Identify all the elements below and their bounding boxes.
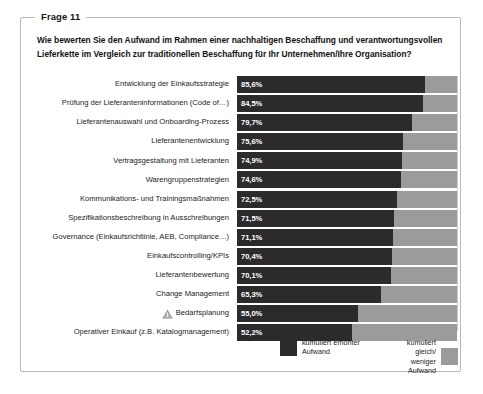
category-label: Prüfung der Lieferanteninformationen (Co… [25,99,237,108]
bar-track: 72,5% [237,191,457,208]
bar-segment-erhoehter-aufwand [237,95,423,112]
category-label-text: Einkaufscontrolling/KPIs [147,252,229,261]
bar-value-label: 72,5% [241,191,262,208]
category-label: Einkaufscontrolling/KPIs [25,252,237,261]
bar-value-label: 70,1% [241,267,262,284]
category-label: Kommunikations- und Trainingsmaßnahmen [25,195,237,204]
category-label-text: Governance (Einkaufsrichtlinie, AEB, Com… [53,233,229,242]
bar-track: 70,4% [237,248,457,265]
category-label: Lieferantenentwicklung [25,137,237,146]
bar-track: 74,6% [237,171,457,188]
bar-value-label: 79,7% [241,114,262,131]
category-label: Change Management [25,290,237,299]
chart-row: Kommunikations- und Trainingsmaßnahmen72… [25,191,458,208]
legend-swatch-dark [280,339,297,356]
category-label: Lieferantenbewertung [25,271,237,280]
stacked-bar-chart: Entwicklung der Einkaufsstrategie85,6%Pr… [25,76,458,331]
legend-label-dark: kumuliert erhöhter Aufwand [302,338,360,357]
category-label: Warengruppenstrategien [25,176,237,185]
bar-segment-erhoehter-aufwand [237,76,425,93]
chart-row: Bedarfsplanung55,0% [25,305,458,322]
bar-value-label: 71,5% [241,210,262,227]
category-label: Vertragsgestaltung mit Lieferanten [25,157,237,166]
chart-row: Lieferantenauswahl und Onboarding-Prozes… [25,114,458,131]
chart-row: Warengruppenstrategien74,6% [25,171,458,188]
bar-value-label: 74,6% [241,171,262,188]
category-label-text: Vertragsgestaltung mit Lieferanten [113,157,229,166]
category-label: Bedarfsplanung [25,309,237,319]
category-label-text: Entwicklung der Einkaufsstrategie [115,80,229,89]
category-label: Governance (Einkaufsrichtlinie, AEB, Com… [25,233,237,242]
question-text: Wie bewerten Sie den Aufwand im Rahmen e… [37,34,445,61]
category-label-text: Lieferantenentwicklung [151,137,229,146]
legend-label-gray: kumuliert gleich/ weniger Aufwand [396,338,436,375]
question-card: Frage 11 Wie bewerten Sie den Aufwand im… [20,17,461,372]
chart-row: Spezifikationsbeschreibung in Ausschreib… [25,210,458,227]
bar-value-label: 74,9% [241,152,262,169]
bar-track: 75,6% [237,133,457,150]
category-label-text: Lieferantenbewertung [156,271,229,280]
bar-track: 71,1% [237,229,457,246]
bar-track: 70,1% [237,267,457,284]
chart-row: Governance (Einkaufsrichtlinie, AEB, Com… [25,229,458,246]
warning-triangle-icon [162,309,173,319]
chart-row: Vertragsgestaltung mit Lieferanten74,9% [25,152,458,169]
bar-track: 84,5% [237,95,457,112]
bar-value-label: 85,6% [241,76,262,93]
bar-value-label: 84,5% [241,95,262,112]
legend-item-gleich-weniger-aufwand: kumuliert gleich/ weniger Aufwand [396,338,458,375]
bar-value-label: 55,0% [241,305,262,322]
bar-segment-erhoehter-aufwand [237,114,412,131]
category-label-text: Bedarfsplanung [176,309,229,318]
legend-item-erhoehter-aufwand: kumuliert erhöhter Aufwand [280,338,360,357]
chart-row: Change Management65,3% [25,286,458,303]
chart-legend: kumuliert erhöhter Aufwand kumuliert gle… [25,336,458,366]
category-label-text: Lieferantenauswahl und Onboarding-Prozes… [77,118,229,127]
category-label: Spezifikationsbeschreibung in Ausschreib… [25,214,237,223]
chart-row: Lieferantenbewertung70,1% [25,267,458,284]
bar-value-label: 65,3% [241,286,262,303]
category-label: Entwicklung der Einkaufsstrategie [25,80,237,89]
category-label: Lieferantenauswahl und Onboarding-Prozes… [25,118,237,127]
category-label-text: Change Management [156,290,229,299]
bar-value-label: 75,6% [241,133,262,150]
category-label-text: Spezifikationsbeschreibung in Ausschreib… [68,214,229,223]
chart-rows: Entwicklung der Einkaufsstrategie85,6%Pr… [25,76,458,343]
bar-track: 55,0% [237,305,457,322]
category-label-text: Warengruppenstrategien [146,176,229,185]
category-label-text: Kommunikations- und Trainingsmaßnahmen [80,195,229,204]
bar-track: 71,5% [237,210,457,227]
card-legend-label: Frage 11 [35,11,86,22]
chart-row: Lieferantenentwicklung75,6% [25,133,458,150]
chart-row: Einkaufscontrolling/KPIs70,4% [25,248,458,265]
chart-row: Prüfung der Lieferanteninformationen (Co… [25,95,458,112]
legend-swatch-gray [441,348,458,365]
bar-track: 65,3% [237,286,457,303]
bar-track: 85,6% [237,76,457,93]
bar-track: 74,9% [237,152,457,169]
bar-track: 79,7% [237,114,457,131]
chart-row: Entwicklung der Einkaufsstrategie85,6% [25,76,458,93]
bar-value-label: 70,4% [241,248,262,265]
bar-value-label: 71,1% [241,229,262,246]
category-label-text: Prüfung der Lieferanteninformationen (Co… [62,99,229,108]
